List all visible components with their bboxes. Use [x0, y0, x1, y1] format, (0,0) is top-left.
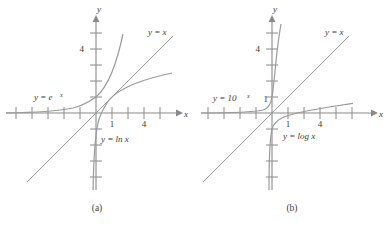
panel-b: 1 4 4 1 x y y = 10 x y = log x y = x (b)	[195, 0, 389, 227]
x-axis-arrowhead	[176, 110, 183, 117]
x-axis-arrowhead	[371, 110, 378, 117]
y-axis-arrowhead	[93, 15, 100, 22]
logarithm-curve	[269, 103, 353, 190]
y-axis-arrowhead	[269, 15, 276, 22]
x-tick-label-4: 4	[318, 119, 323, 129]
x-axis-label: x	[183, 109, 188, 119]
x-tick-label-1: 1	[286, 119, 291, 129]
panel-a: 1 4 4 x y y = e x y = ln x y = x (a)	[0, 0, 194, 227]
exponential-label-exponent: x	[59, 91, 63, 98]
y-axis-label: y	[96, 4, 101, 14]
exponential-label-text: y = e	[33, 92, 53, 102]
y-axis-label: y	[272, 4, 277, 14]
panel-b-caption: (b)	[195, 203, 389, 213]
logarithm-label: y = log x	[282, 131, 315, 141]
exponential-label: y = 10 x	[212, 92, 250, 104]
exponential-label: y = e x	[33, 91, 63, 103]
x-tick-label-1: 1	[110, 119, 115, 129]
logarithm-curve	[93, 73, 172, 190]
exponential-label-exponent: x	[246, 92, 250, 99]
y-tick-label-1: 1	[264, 94, 269, 104]
y-tick-label-4: 4	[80, 44, 85, 54]
x-axis-label: x	[378, 109, 383, 119]
y-tick-label-4: 4	[256, 44, 261, 54]
panel-b-plot: 1 4 4 1 x y y = 10 x y = log x y = x	[195, 0, 389, 203]
identity-label: y = x	[147, 27, 167, 37]
panel-a-plot: 1 4 4 x y y = e x y = ln x y = x	[0, 0, 194, 203]
panel-a-caption: (a)	[0, 203, 194, 213]
exponential-curve	[6, 34, 123, 113]
inverse-functions-figure: 1 4 4 x y y = e x y = ln x y = x (a)	[0, 0, 389, 227]
x-tick-label-4: 4	[142, 119, 147, 129]
identity-line	[27, 36, 173, 182]
identity-label: y = x	[324, 27, 344, 37]
logarithm-label: y = ln x	[100, 134, 129, 144]
exponential-label-text: y = 10	[212, 93, 237, 103]
